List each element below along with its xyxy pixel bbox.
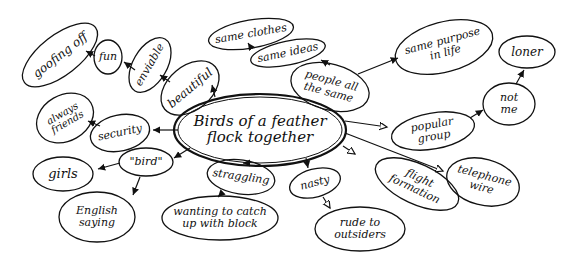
center-node: Birds of a feather flock together (180, 102, 340, 158)
node-fun: fun (94, 48, 122, 66)
node-loner: loner (504, 43, 550, 61)
node-rude-to-outsiders: rude to outsiders (320, 214, 400, 244)
node-wanting-to-catch-up: wanting to catch up with block (164, 203, 276, 233)
node-girls: girls (38, 164, 88, 184)
node-bird: "bird" (122, 153, 170, 171)
node-english-saying: English saying (64, 202, 130, 232)
node-not-me: not me (488, 90, 530, 118)
